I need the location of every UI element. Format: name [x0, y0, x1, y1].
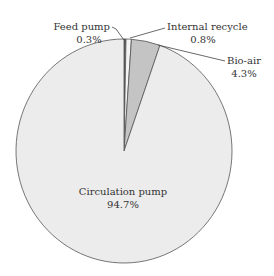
- label-feed-pump: Feed pump: [53, 21, 110, 32]
- label-circulation-pump-pct: 94.7%: [107, 199, 139, 210]
- leader-line-internal-recycle: [130, 28, 165, 38]
- pie-chart: Feed pump 0.3% Internal recycle 0.8% Bio…: [0, 0, 274, 276]
- label-internal-recycle-pct: 0.8%: [190, 34, 215, 45]
- leader-line-feed-pump: [112, 27, 124, 40]
- label-bio-air-pct: 4.3%: [231, 68, 256, 79]
- label-feed-pump-pct: 0.3%: [76, 34, 101, 45]
- pie-slice-circulation-pump: [16, 39, 232, 263]
- pie-slices: [16, 39, 232, 263]
- label-circulation-pump: Circulation pump: [79, 186, 167, 197]
- label-internal-recycle: Internal recycle: [167, 21, 248, 32]
- label-bio-air: Bio-air: [227, 55, 261, 66]
